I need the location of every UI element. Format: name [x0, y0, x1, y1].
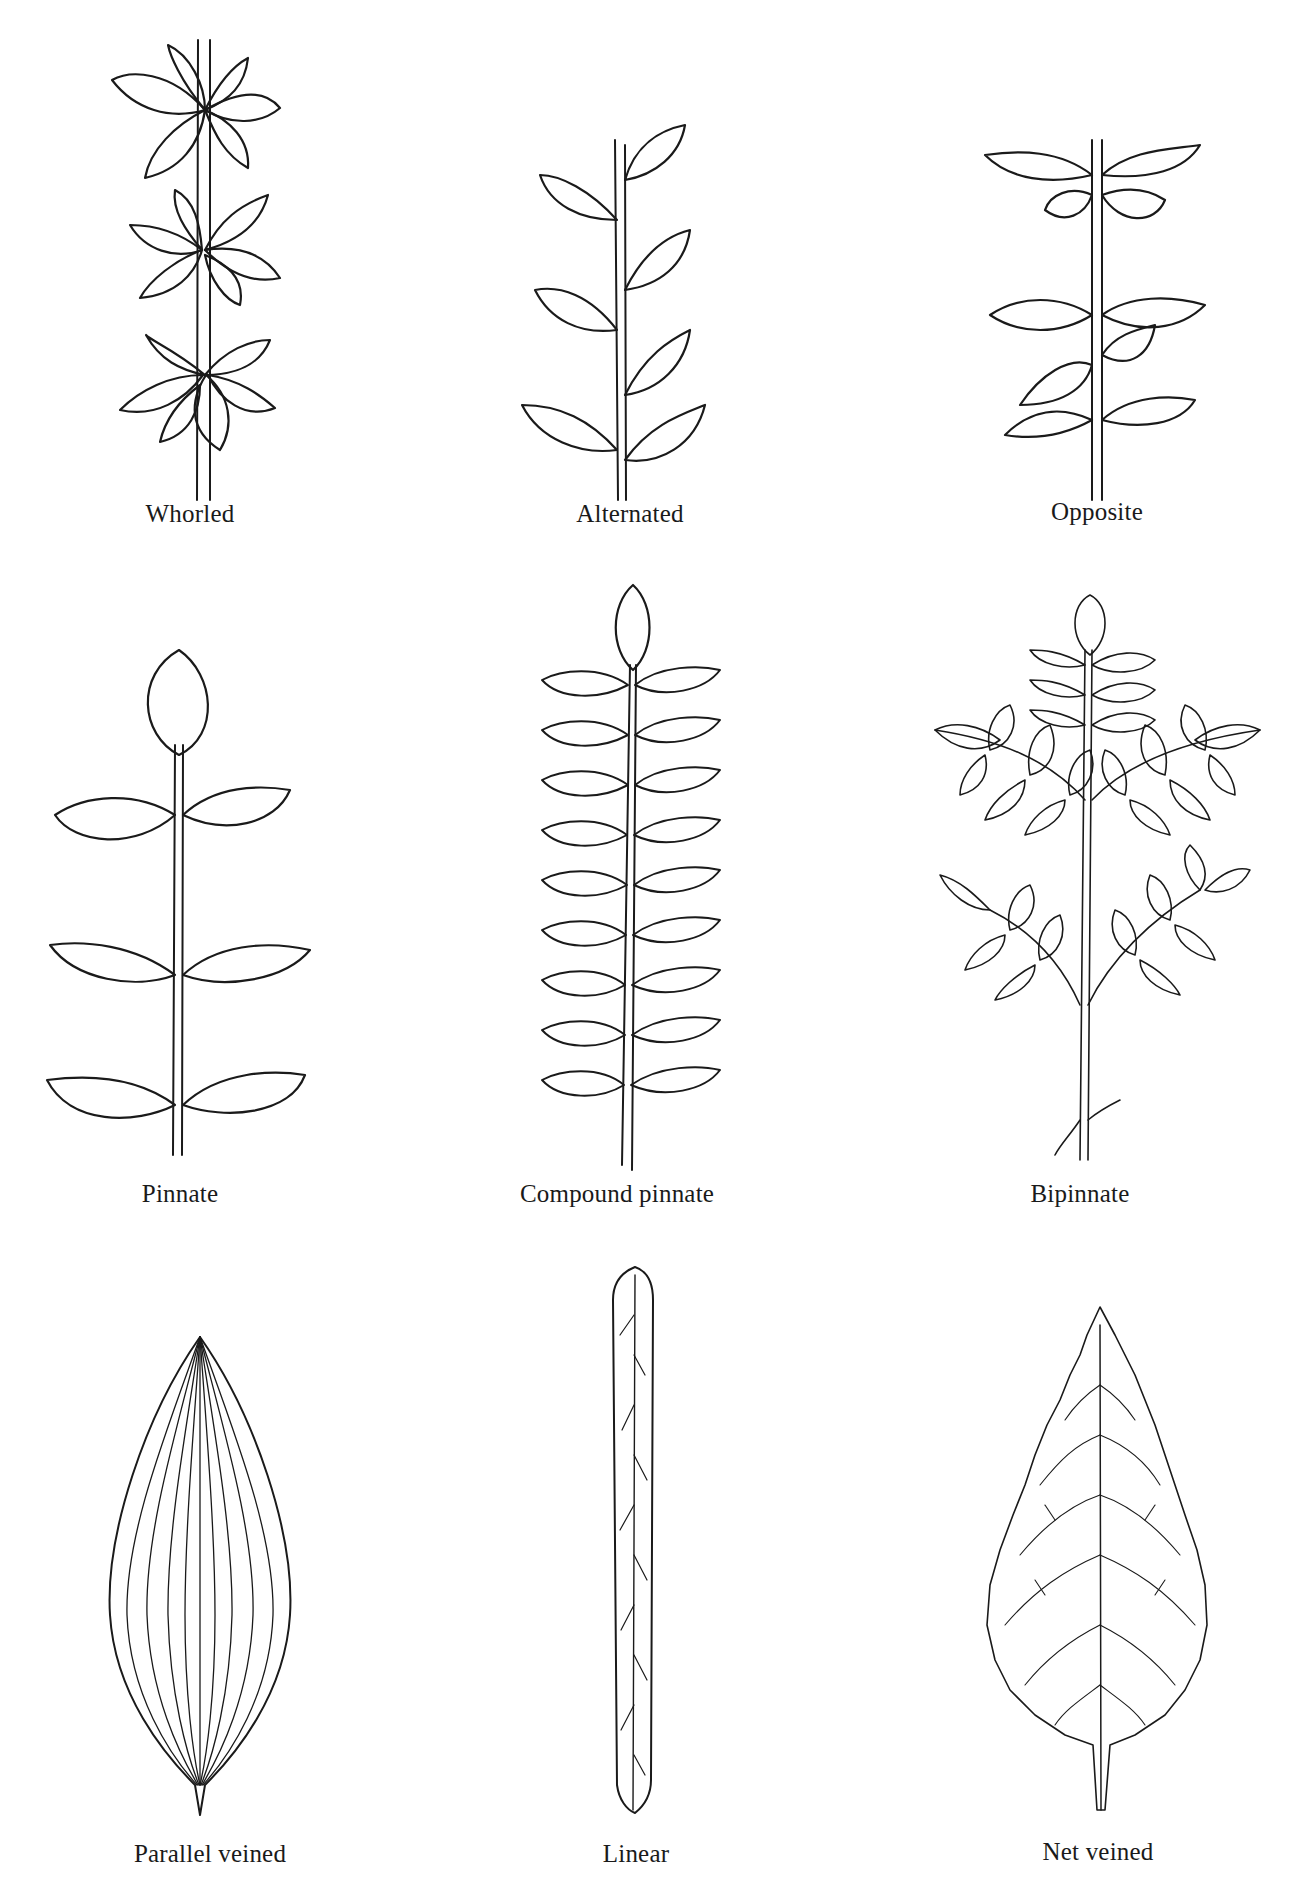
label-parallel-veined: Parallel veined: [134, 1840, 286, 1868]
illustration-compound-pinnate: [530, 585, 730, 1170]
illustration-whorled: [100, 30, 300, 500]
opposite-leaves-icon: [980, 135, 1220, 500]
label-opposite: Opposite: [1051, 498, 1143, 526]
net-veined-leaf-icon: [975, 1305, 1225, 1815]
label-net-veined: Net veined: [1043, 1838, 1154, 1866]
linear-leaf-icon: [605, 1265, 665, 1815]
illustration-opposite: [980, 135, 1220, 500]
whorled-leaves-icon: [100, 30, 300, 500]
illustration-parallel-veined: [105, 1335, 295, 1815]
illustration-pinnate: [45, 645, 325, 1155]
label-linear: Linear: [603, 1840, 669, 1868]
illustration-linear: [605, 1265, 665, 1815]
label-bipinnate: Bipinnate: [1030, 1180, 1129, 1208]
illustration-bipinnate: [930, 590, 1270, 1160]
alternated-leaves-icon: [520, 120, 720, 500]
label-alternated: Alternated: [576, 500, 684, 528]
label-pinnate: Pinnate: [142, 1180, 218, 1208]
label-whorled: Whorled: [146, 500, 235, 528]
parallel-veined-leaf-icon: [105, 1335, 295, 1815]
pinnate-leaf-icon: [45, 645, 325, 1155]
compound-pinnate-leaf-icon: [530, 585, 730, 1170]
label-compound-pinnate: Compound pinnate: [520, 1180, 714, 1208]
illustration-net-veined: [975, 1305, 1225, 1815]
bipinnate-leaf-icon: [930, 590, 1270, 1160]
illustration-alternated: [520, 120, 720, 500]
